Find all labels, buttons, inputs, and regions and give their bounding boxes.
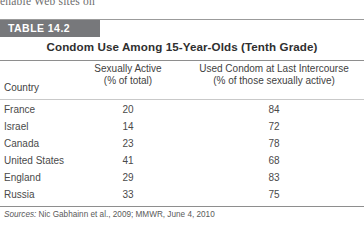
table-row: Russia 33 75: [0, 189, 364, 206]
column-header-country: Country: [4, 82, 39, 93]
cell-used-condom: 84: [186, 104, 362, 115]
cell-country: Israel: [4, 121, 28, 132]
table-title: Condom Use Among 15-Year-Olds (Tenth Gra…: [0, 40, 364, 53]
cell-country: Canada: [4, 138, 39, 149]
table-card: TABLE 14.2 Condom Use Among 15-Year-Olds…: [0, 18, 364, 233]
cell-country: England: [4, 172, 41, 183]
column-header-sexually-active-line1: Sexually Active: [86, 63, 170, 75]
column-header-used-condom-line1: Used Condom at Last Intercourse: [186, 63, 362, 75]
cell-used-condom: 75: [186, 189, 362, 200]
cell-sexually-active: 29: [86, 172, 170, 183]
cell-used-condom: 72: [186, 121, 362, 132]
cell-sexually-active: 20: [86, 104, 170, 115]
cell-country: Russia: [4, 189, 35, 200]
cell-used-condom: 83: [186, 172, 362, 183]
column-header-sexually-active: Sexually Active (% of total): [86, 63, 170, 86]
cell-country: France: [4, 104, 35, 115]
header-top-rule: [0, 60, 364, 61]
header-bottom-rule: [0, 99, 364, 100]
table-row: Canada 23 78: [0, 138, 364, 155]
table-row: France 20 84: [0, 104, 364, 121]
sources-text: Nic Gabhainn et al., 2009; MMWR, June 4,…: [39, 210, 215, 219]
table-sources-note: Sources: Nic Gabhainn et al., 2009; MMWR…: [4, 210, 215, 219]
page-bleed-text: enable Web sites on: [0, 0, 364, 11]
sources-label: Sources:: [4, 210, 36, 219]
column-header-used-condom: Used Condom at Last Intercourse (% of th…: [186, 63, 362, 86]
table-row: England 29 83: [0, 172, 364, 189]
cell-country: United States: [4, 155, 64, 166]
cell-used-condom: 78: [186, 138, 362, 149]
table-number-badge: TABLE 14.2: [0, 20, 100, 37]
table-row: Israel 14 72: [0, 121, 364, 138]
cell-sexually-active: 33: [86, 189, 170, 200]
cell-sexually-active: 41: [86, 155, 170, 166]
table-bottom-rule: [0, 206, 364, 207]
cell-sexually-active: 14: [86, 121, 170, 132]
cell-sexually-active: 23: [86, 138, 170, 149]
cell-used-condom: 68: [186, 155, 362, 166]
column-header-sexually-active-line2: (% of total): [86, 75, 170, 87]
table-row: United States 41 68: [0, 155, 364, 172]
column-header-used-condom-line2: (% of those sexually active): [186, 75, 362, 87]
table-body: France 20 84 Israel 14 72 Canada 23 78 U…: [0, 104, 364, 206]
